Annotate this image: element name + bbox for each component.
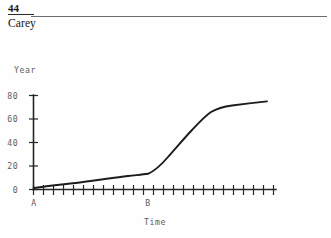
chart-svg: Year 80 60 40 20 0 (0, 40, 331, 238)
page-number: 44 (8, 2, 19, 14)
y-tick-label-20: 20 (7, 161, 18, 171)
y-tick-label-80: 80 (7, 91, 18, 101)
y-axis-title: Year (14, 65, 36, 75)
y-tick-label-40: 40 (7, 138, 18, 148)
running-head-rule (31, 16, 327, 17)
y-axis-tick-labels: 80 60 40 20 0 (7, 91, 18, 195)
y-tick-label-0: 0 (13, 185, 18, 195)
running-title: Carey (8, 17, 36, 30)
x-annotation-a: A (31, 198, 36, 208)
y-tick-label-60: 60 (7, 114, 18, 124)
growth-curve-line (34, 101, 267, 188)
x-annotation-b: B (145, 198, 150, 208)
line-chart-figure: Year 80 60 40 20 0 (0, 40, 331, 238)
page-number-rule (8, 14, 34, 15)
journal-page: 44 Carey Year 80 60 40 20 0 (0, 0, 331, 238)
x-axis-title: Time (144, 217, 166, 227)
